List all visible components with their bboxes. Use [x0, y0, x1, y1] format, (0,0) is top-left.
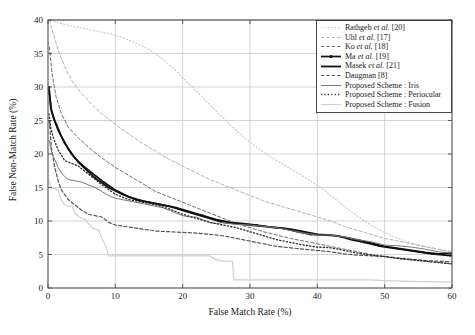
- x-tick-label: 60: [448, 291, 458, 301]
- legend-swatch-icon: [320, 23, 342, 32]
- legend-label: Rathgeb et al. [20]: [345, 23, 405, 33]
- legend-label: Uhl et al. [17]: [345, 33, 390, 43]
- legend-item: Masek et al. [21]: [320, 61, 448, 71]
- y-tick-label: 35: [34, 49, 44, 59]
- legend-swatch-icon: [320, 42, 342, 51]
- series-line-6: [49, 141, 452, 254]
- y-axis-label-wrap: False Non-Match Rate (%): [2, 0, 24, 300]
- legend-label: Proposed Scheme : Iris: [345, 81, 419, 91]
- x-axis-label: False Match Rate (%): [48, 307, 452, 317]
- x-tick-label: 20: [178, 291, 188, 301]
- y-tick-label: 15: [34, 183, 44, 193]
- legend-label: Proposed Scheme : Periocular: [345, 90, 441, 100]
- roc-figure: 01020304050600510152025303540 False Non-…: [0, 0, 475, 335]
- y-axis-label: False Non-Match Rate (%): [8, 99, 18, 202]
- legend-item: Ko et al. [18]: [320, 42, 448, 52]
- legend: Rathgeb et al. [20]Uhl et al. [17]Ko et …: [316, 20, 452, 113]
- legend-item: Uhl et al. [17]: [320, 33, 448, 43]
- legend-swatch-icon: [320, 90, 342, 99]
- legend-label: Daugman [8]: [345, 71, 387, 81]
- legend-label-italic: et al.: [358, 52, 374, 61]
- legend-item: Proposed Scheme : Periocular: [320, 90, 448, 100]
- x-tick-label: 40: [313, 291, 323, 301]
- legend-swatch-icon: [320, 71, 342, 80]
- y-tick-label: 20: [34, 149, 44, 159]
- legend-swatch-icon: [320, 52, 342, 61]
- legend-label: Ma et al. [19]: [345, 52, 389, 62]
- y-tick-label: 30: [34, 82, 44, 92]
- x-tick-label: 50: [380, 291, 390, 301]
- legend-swatch-icon: [320, 62, 342, 71]
- legend-swatch-icon: [320, 33, 342, 42]
- legend-label-italic: et al.: [359, 33, 375, 42]
- legend-label: Ko et al. [18]: [345, 42, 388, 52]
- y-tick-label: 25: [34, 116, 44, 126]
- legend-swatch-icon: [320, 100, 342, 109]
- legend-label-italic: et al.: [374, 23, 390, 32]
- legend-item: Daugman [8]: [320, 71, 448, 81]
- y-tick-label: 40: [34, 15, 44, 25]
- legend-swatch-icon: [320, 81, 342, 90]
- y-tick-label: 0: [39, 283, 44, 293]
- legend-label: Proposed Scheme : Fusion: [345, 100, 430, 110]
- legend-item: Proposed Scheme : Iris: [320, 81, 448, 91]
- series-line-5: [49, 121, 452, 262]
- y-tick-label: 10: [34, 216, 44, 226]
- y-tick-label: 5: [39, 250, 44, 260]
- legend-label-italic: et al.: [357, 42, 373, 51]
- legend-label: Masek et al. [21]: [345, 61, 400, 71]
- legend-item: Rathgeb et al. [20]: [320, 23, 448, 33]
- x-tick-label: 0: [46, 291, 51, 301]
- x-tick-label: 30: [246, 291, 256, 301]
- legend-item: Proposed Scheme : Fusion: [320, 100, 448, 110]
- x-tick-label: 10: [111, 291, 121, 301]
- legend-label-italic: et al.: [368, 61, 384, 70]
- series-line-4: [49, 90, 452, 253]
- legend-item: Ma et al. [19]: [320, 52, 448, 62]
